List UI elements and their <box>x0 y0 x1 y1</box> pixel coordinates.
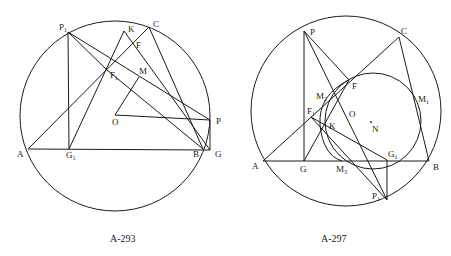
label-C: C <box>153 19 159 29</box>
geometry-figures: P1 K C F F1 M O P A G1 B G A-293 <box>0 0 451 256</box>
label-P1: P1 <box>59 22 67 33</box>
circumcircle <box>251 16 441 206</box>
label-M1: M1 <box>418 94 429 105</box>
label-N: N <box>372 124 379 134</box>
label-A: A <box>17 149 24 159</box>
line-AG <box>28 149 210 150</box>
caption-a293: A-293 <box>110 233 136 244</box>
figure-a297: P C F M2 M1 F1 O K N A G M3 G1 B P1 A-29… <box>251 16 441 244</box>
line-AC <box>28 27 149 149</box>
line-CB <box>149 27 203 149</box>
label-G1: G1 <box>388 149 398 160</box>
label-F1: F1 <box>110 70 118 81</box>
label-F: F <box>136 40 141 50</box>
label-A: A <box>252 161 259 171</box>
label-M: M <box>139 66 147 76</box>
label-O: O <box>349 109 356 119</box>
point-N <box>370 121 372 123</box>
label-G: G <box>215 149 222 159</box>
label-G: G <box>300 164 307 174</box>
line-PF <box>304 31 349 80</box>
label-O: O <box>112 117 119 127</box>
label-P: P <box>216 116 221 126</box>
label-K: K <box>128 24 135 34</box>
caption-a297: A-297 <box>321 233 347 244</box>
line-F1B <box>107 70 203 149</box>
label-G1: G1 <box>66 150 76 161</box>
label-K: K <box>329 121 336 131</box>
label-P: P <box>310 27 315 37</box>
label-M2: M2 <box>316 91 327 102</box>
label-F1: F1 <box>307 106 315 117</box>
label-B: B <box>433 162 439 172</box>
line-P1F1 <box>68 32 107 70</box>
label-P1: P1 <box>372 191 380 202</box>
figure-a293: P1 K C F F1 M O P A G1 B G A-293 <box>17 19 222 244</box>
line-P1G1 <box>68 32 69 149</box>
circle-N <box>325 73 421 169</box>
label-M3: M3 <box>336 164 347 175</box>
label-B: B <box>193 149 199 159</box>
line-OM <box>115 77 139 115</box>
line-AC <box>263 37 399 161</box>
label-F: F <box>352 81 357 91</box>
line-G1K <box>69 31 124 149</box>
label-C: C <box>401 26 407 36</box>
